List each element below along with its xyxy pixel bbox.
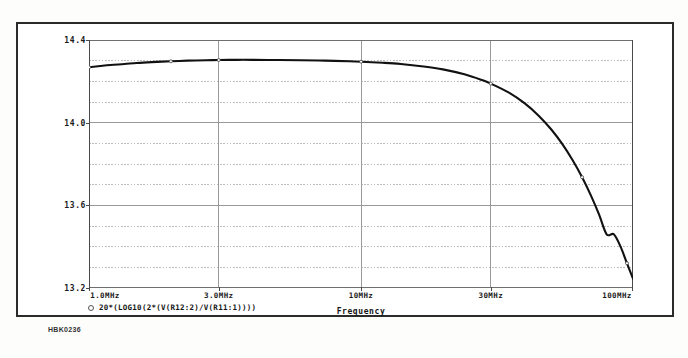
x-tick-label: 30MHz [478,291,503,300]
data-point-markers [89,59,628,265]
x-tick-label: 3.0MHz [204,291,234,300]
plot-grid-and-curve [89,40,633,288]
x-axis-title: Frequency [89,307,633,316]
x-tick-label: 10MHz [349,291,374,300]
figure-container: 14.414.013.613.2 1.0MHz3.0MHz10MHz30MHz1… [0,0,688,358]
figure-caption-id: HBK0236 [48,326,81,333]
y-tick-label: 13.2 [64,284,86,293]
x-tick-mark [219,287,220,291]
x-tick-mark [89,287,90,291]
x-tick-label: 100MHz [602,291,632,300]
y-tick-label: 14.4 [64,36,86,45]
x-tick-label: 1.0MHz [90,291,120,300]
y-axis-tick-labels: 14.414.013.613.2 [44,40,86,288]
y-tick-label: 14.0 [64,118,86,127]
x-tick-mark [361,287,362,291]
plot-area [89,40,633,288]
x-tick-mark [632,287,633,291]
x-tick-mark [491,287,492,291]
y-tick-label: 13.6 [64,201,86,210]
